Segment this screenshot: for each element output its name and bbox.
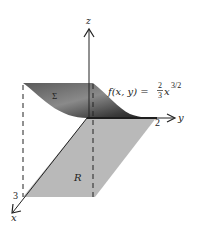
y-axis-label: y [177, 112, 184, 123]
svg-text:f(x, y) =: f(x, y) = [107, 86, 149, 97]
svg-text:x: x [164, 86, 170, 97]
z-axis-label: z [85, 16, 91, 26]
surface-diagram: z y x 2 3 Σ R f(x, y) = 2 3 x 3/2 [0, 0, 198, 228]
y-tick-label: 2 [155, 117, 160, 128]
svg-text:2: 2 [158, 81, 162, 90]
svg-text:3/2: 3/2 [171, 81, 181, 90]
function-label: f(x, y) = 2 3 x 3/2 [107, 81, 181, 100]
x-tick-label: 3 [13, 190, 18, 201]
surface-label: Σ [52, 91, 57, 101]
region-r [23, 118, 156, 197]
svg-text:3: 3 [158, 91, 162, 100]
region-label: R [73, 172, 82, 183]
x-axis-label: x [11, 212, 17, 223]
